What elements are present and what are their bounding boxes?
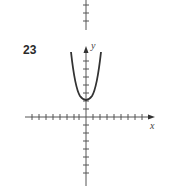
y-axis [83,46,89,186]
y-axis-arrow-icon [84,46,89,53]
x-axis-arrow-icon [148,115,155,120]
graph [0,0,170,189]
x-axis-label: x [150,120,154,131]
y-axis-label: y [91,40,95,51]
previous-axis-remnant [83,0,89,30]
x-axis [25,114,155,120]
